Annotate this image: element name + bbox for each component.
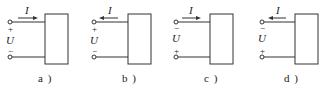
panel-c: I − U + c ): [160, 0, 240, 92]
bottom-sign: −: [8, 47, 13, 56]
caption-a: a ): [38, 72, 52, 84]
circuit-c: [160, 0, 240, 92]
panel-a: I + U − a ): [0, 0, 80, 92]
arrow-right-icon: [182, 16, 201, 20]
voltage-label: U: [90, 34, 98, 46]
current-label: I: [189, 4, 193, 16]
current-label: I: [276, 4, 280, 16]
bottom-sign: +: [174, 47, 179, 56]
voltage-label: U: [258, 32, 266, 44]
caption-d: d ): [284, 72, 299, 84]
panel-b: I + U − b ): [80, 0, 160, 92]
top-sign: +: [92, 25, 97, 34]
voltage-label: U: [6, 34, 14, 46]
top-sign: +: [8, 25, 13, 34]
circuit-d: [240, 0, 323, 92]
arrow-left-icon: [268, 16, 286, 20]
current-label: I: [25, 4, 29, 16]
voltage-label: U: [172, 32, 180, 44]
caption-b: b ): [122, 72, 137, 84]
panel-d: I − U + d ): [240, 0, 320, 92]
caption-c: c ): [204, 72, 218, 84]
arrow-left-icon: [99, 16, 118, 20]
bottom-sign: −: [92, 47, 97, 56]
current-label: I: [108, 4, 112, 16]
arrow-right-icon: [18, 16, 38, 20]
bottom-sign: +: [260, 47, 265, 56]
